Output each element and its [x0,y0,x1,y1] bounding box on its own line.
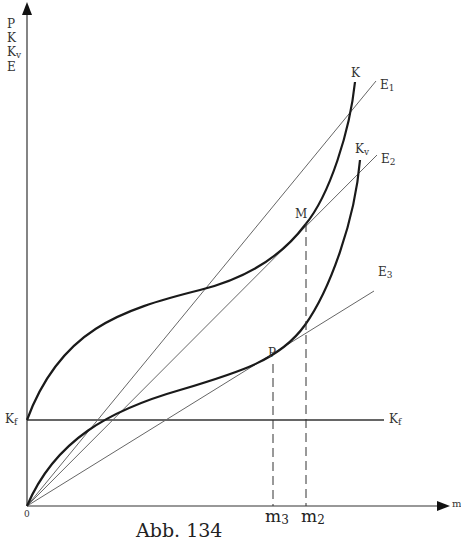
k-curve-label: K [351,67,360,79]
y-axis-arrow-icon [22,2,32,15]
e1-label: E1 [380,79,395,93]
m2-sub: 2 [317,513,325,527]
e2-sub: 2 [390,157,396,167]
e3-label: E3 [378,266,393,280]
kf-right-sub: f [398,417,401,427]
e3-main: E [378,265,387,279]
x-axis-label: m [452,499,461,509]
cost-curve-diagram: P K Kv E Kf Kf K E1 Kv E2 E3 M P 0 m3 m2… [0,0,461,542]
kf-right-label: Kf [389,413,401,427]
e1-sub: 1 [389,83,395,93]
y-label-e: E [7,61,16,73]
m3-sub: 3 [281,513,289,527]
e1-main: E [380,78,389,92]
m2-main: m [301,506,317,526]
figure-caption: Abb. 134 [136,521,222,540]
y-label-kv-sub: v [16,50,21,60]
kv-curve-label: Kv [355,143,369,157]
y-label-k: K [7,32,16,44]
kv-variable-cost-curve [27,160,360,506]
origin-label: 0 [24,510,30,519]
e2-main: E [381,152,390,166]
m3-main: m [265,506,281,526]
x-axis-arrow-icon [437,501,450,511]
point-p-label: P [268,347,276,359]
y-label-p: P [7,18,15,30]
e2-ray [27,155,377,506]
m2-tick-label: m2 [301,508,325,526]
kv-sub: v [364,147,369,157]
kf-left-label: Kf [5,413,17,427]
kf-left-main: K [5,412,14,426]
e2-label: E2 [381,153,396,167]
point-m-label: M [295,208,307,220]
kv-main: K [355,142,364,156]
y-label-kv-main: K [7,45,16,59]
m3-tick-label: m3 [265,508,289,526]
kf-left-sub: f [14,417,17,427]
kf-right-main: K [389,412,398,426]
e3-ray [27,291,374,506]
e3-sub: 3 [387,270,393,280]
y-label-kv: Kv [7,46,21,60]
